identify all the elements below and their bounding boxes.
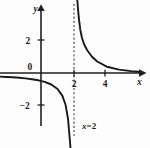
graph-canvas: y x 2 0 −2 2 4 x=2 [0, 0, 150, 148]
y-tick-label-2: 2 [26, 36, 31, 46]
y-tick-label-neg2: −2 [20, 101, 30, 111]
y-axis-label: y [33, 4, 39, 14]
y-axis-arrowhead [37, 4, 44, 11]
x-axis-arrowhead [139, 69, 147, 77]
x-tick-label-4: 4 [103, 79, 108, 89]
math-figure: y x 2 0 −2 2 4 x=2 [0, 0, 150, 148]
x-tick-label-2: 2 [72, 79, 77, 89]
y-tick-label-0: 0 [28, 62, 33, 72]
asymptote-annotation-value: 2 [92, 121, 97, 131]
hyperbola-left-branch [0, 77, 71, 148]
asymptote-annotation: x=2 [81, 121, 97, 131]
x-axis-label: x [136, 77, 142, 87]
hyperbola-right-branch [77, 0, 139, 72]
